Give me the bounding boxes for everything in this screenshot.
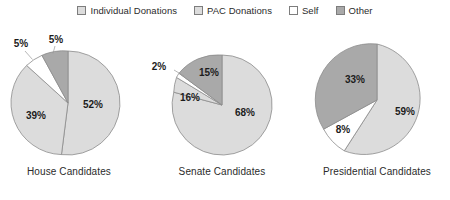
bottom-scan-artifact xyxy=(0,193,450,200)
pie-label-senate-self: 2% xyxy=(152,61,167,72)
pie-label-house-other: 5% xyxy=(49,34,64,45)
leader-line-house-self xyxy=(25,51,33,60)
pie-presidential-svg: 59% 8% 33% xyxy=(313,40,441,160)
pie-senate-svg: 68% 16% 2% 15% xyxy=(164,45,280,160)
pie-label-presidential-individual: 59% xyxy=(395,106,415,117)
pie-label-presidential-self: 8% xyxy=(336,124,351,135)
charts-row: 52% 39% 5% 5% House Candidates 68% xyxy=(0,0,450,200)
pie-label-presidential-other: 33% xyxy=(345,74,365,85)
pie-house-svg: 52% 39% 5% 5% xyxy=(8,42,130,160)
pie-caption-presidential-candidates: Presidential Candidates xyxy=(313,166,441,177)
pie-label-senate-pac: 16% xyxy=(180,92,200,103)
pie-label-house-individual: 52% xyxy=(83,99,103,110)
pie-label-senate-individual: 68% xyxy=(235,107,255,118)
pie-caption-house-candidates: House Candidates xyxy=(8,166,130,177)
pie-label-senate-other: 15% xyxy=(199,67,219,78)
pie-label-house-pac: 39% xyxy=(26,110,46,121)
pie-chart-figure: Individual Donations PAC Donations Self … xyxy=(0,0,450,200)
pie-label-house-self: 5% xyxy=(14,38,29,49)
pie-caption-senate-candidates: Senate Candidates xyxy=(164,166,280,177)
pie-chart-house-candidates: 52% 39% 5% 5% House Candidates xyxy=(8,42,130,192)
pie-chart-senate-candidates: 68% 16% 2% 15% Senate Candidates xyxy=(164,45,280,193)
pie-chart-presidential-candidates: 59% 8% 33% Presidential Candidates xyxy=(313,40,441,192)
